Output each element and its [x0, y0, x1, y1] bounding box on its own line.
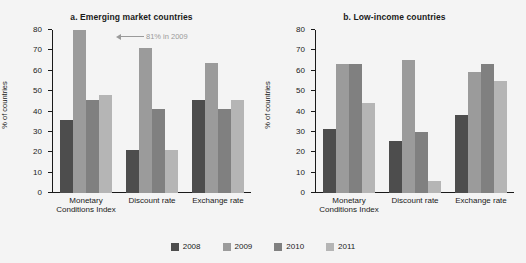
x-label-discount-b: Discount rate [382, 196, 448, 214]
panel-low-income: b. Low-income countries % of countries 0… [263, 0, 526, 222]
chart-figure: a. Emerging market countries % of countr… [0, 0, 526, 263]
y-tick-20-a: 20 [48, 151, 52, 152]
plot-area-b: 0 10 20 30 40 50 60 70 80 [315, 30, 514, 193]
y-tick-40-a: 40 [48, 111, 52, 112]
x-axis-labels-b: Monetary Conditions Index Discount rate … [316, 196, 514, 214]
y-tick-label-40-b: 40 [296, 106, 305, 115]
y-tick-50-a: 50 [48, 90, 52, 91]
y-tick-label-20-b: 20 [296, 147, 305, 156]
y-tick-label-80-b: 80 [296, 25, 305, 34]
panel-emerging-market: a. Emerging market countries % of countr… [0, 0, 263, 222]
y-tick-10-a: 10 [48, 172, 52, 173]
y-tick-80-a: 80 [48, 29, 52, 30]
bar-group-discount-rate-b [389, 30, 441, 193]
bar-groups-a [53, 30, 251, 193]
bar-group-discount-rate-a [126, 30, 178, 193]
y-tick-label-70-b: 70 [296, 45, 305, 54]
panel-a-title: a. Emerging market countries [0, 12, 263, 22]
y-tick-label-50-b: 50 [296, 86, 305, 95]
legend-label-2011: 2011 [338, 242, 355, 251]
legend-item-2011[interactable]: 2011 [326, 242, 355, 251]
legend-label-2008: 2008 [183, 242, 201, 251]
bar-b-discount-2011 [428, 181, 441, 193]
bar-a-discount-2011 [165, 150, 178, 193]
bar-b-mci-2010 [349, 64, 362, 193]
bar-groups-b [316, 30, 514, 193]
y-tick-label-0-a: 0 [38, 188, 42, 197]
panel-b-title: b. Low-income countries [263, 12, 526, 22]
y-tick-20-b: 20 [311, 151, 315, 152]
y-tick-70-a: 70 [48, 49, 52, 50]
bar-b-exchange-2008 [455, 115, 468, 193]
bar-b-mci-2008 [323, 129, 336, 193]
annotation-text: 81% in 2009 [146, 32, 188, 41]
legend-swatch-2009 [223, 243, 231, 251]
y-axis-label-b: % of countries [263, 60, 272, 150]
y-tick-30-b: 30 [311, 131, 315, 132]
bar-a-exchange-2010 [218, 109, 231, 193]
chart-panels: a. Emerging market countries % of countr… [0, 0, 526, 222]
y-tick-60-a: 60 [48, 70, 52, 71]
y-tick-40-b: 40 [311, 111, 315, 112]
bar-a-discount-2009 [139, 48, 152, 193]
bar-group-exchange-rate-b [455, 30, 507, 193]
x-label-exchange-b: Exchange rate [448, 196, 514, 214]
legend-swatch-2011 [326, 243, 334, 251]
bar-a-mci-2010 [86, 100, 99, 193]
bar-b-discount-2009 [402, 60, 415, 193]
legend-swatch-2008 [171, 243, 179, 251]
y-tick-70-b: 70 [311, 49, 315, 50]
bar-a-discount-2010 [152, 109, 165, 193]
x-label-mci-a: Monetary Conditions Index [53, 196, 119, 214]
bar-a-mci-2009 [73, 30, 86, 193]
y-tick-label-60-a: 60 [33, 65, 42, 74]
bar-a-exchange-2011 [231, 100, 244, 193]
bar-b-exchange-2011 [494, 81, 507, 193]
bar-b-exchange-2009 [468, 72, 481, 193]
y-tick-label-0-b: 0 [301, 188, 305, 197]
bar-group-monetary-conditions-index-b [323, 30, 375, 193]
legend-label-2009: 2009 [235, 242, 253, 251]
annotation-81-percent: 81% in 2009 [116, 32, 188, 41]
y-tick-60-b: 60 [311, 70, 315, 71]
y-tick-label-60-b: 60 [296, 65, 305, 74]
y-tick-80-b: 80 [311, 29, 315, 30]
legend-item-2009[interactable]: 2009 [223, 242, 253, 251]
chart-legend: 2008 2009 2010 2011 [0, 242, 526, 251]
y-tick-label-80-a: 80 [33, 25, 42, 34]
y-tick-50-b: 50 [311, 90, 315, 91]
left-arrow-icon [116, 33, 144, 40]
x-label-discount-a: Discount rate [119, 196, 185, 214]
legend-item-2008[interactable]: 2008 [171, 242, 201, 251]
y-tick-label-10-a: 10 [33, 167, 42, 176]
x-label-exchange-a: Exchange rate [185, 196, 251, 214]
bar-a-exchange-2009 [205, 63, 218, 193]
y-tick-label-30-b: 30 [296, 126, 305, 135]
y-tick-0-b: 0 [311, 192, 315, 193]
y-axis-label-a: % of countries [0, 60, 9, 150]
y-tick-label-30-a: 30 [33, 126, 42, 135]
x-axis-labels-a: Monetary Conditions Index Discount rate … [53, 196, 251, 214]
legend-swatch-2010 [274, 243, 282, 251]
y-tick-label-20-a: 20 [33, 147, 42, 156]
bar-b-exchange-2010 [481, 64, 494, 193]
y-tick-label-40-a: 40 [33, 106, 42, 115]
legend-item-2010[interactable]: 2010 [274, 242, 304, 251]
plot-area-a: 0 10 20 30 40 50 60 70 80 [52, 30, 251, 193]
y-tick-label-10-b: 10 [296, 167, 305, 176]
y-tick-30-a: 30 [48, 131, 52, 132]
bar-group-exchange-rate-a [192, 30, 244, 193]
bar-a-mci-2008 [60, 120, 73, 193]
x-label-mci-b: Monetary Conditions Index [316, 196, 382, 214]
bar-group-monetary-conditions-index-a [60, 30, 112, 193]
bar-b-discount-2010 [415, 132, 428, 193]
bar-a-exchange-2008 [192, 100, 205, 193]
bar-a-mci-2011 [99, 95, 112, 193]
bar-b-mci-2009 [336, 64, 349, 193]
legend-label-2010: 2010 [286, 242, 304, 251]
bar-a-discount-2008 [126, 150, 139, 193]
y-tick-10-b: 10 [311, 172, 315, 173]
bar-b-mci-2011 [362, 103, 375, 193]
y-tick-0-a: 0 [48, 192, 52, 193]
bar-b-discount-2008 [389, 141, 402, 193]
